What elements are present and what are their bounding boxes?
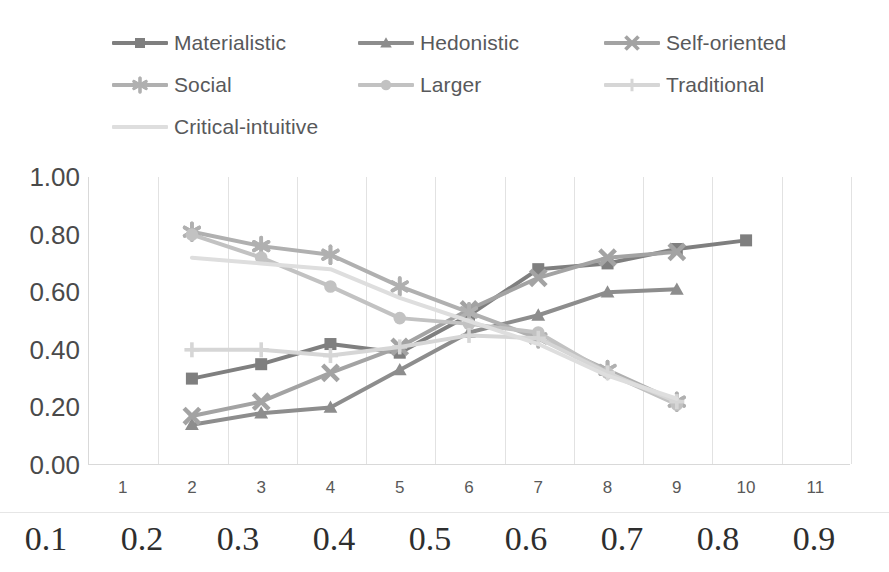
legend-item-critical-intuitive[interactable]: Critical-intuitive [112,106,358,148]
legend-x-marker [604,34,660,52]
legend-item-traditional[interactable]: Traditional [604,64,850,106]
x-tick-label: 10 [716,478,776,498]
y-tick-label: 0.20 [10,392,80,423]
x-tick-label: 2 [162,478,222,498]
y-tick-label: 0.40 [10,334,80,365]
y-tick-label: 0.00 [10,450,80,481]
legend-swatch [604,34,660,52]
legend-line [112,125,168,129]
legend-triangle-marker [358,34,414,52]
chart-legend: MaterialisticHedonisticSelf-orientedSoci… [112,22,852,148]
x-tick-label: 1 [93,478,153,498]
page-divider [0,512,889,513]
legend-item-larger[interactable]: Larger [358,64,604,106]
x-tick-label: 7 [508,478,568,498]
legend-item-label: Self-oriented [666,31,786,55]
legend-swatch [112,118,168,136]
legend-item-materialistic[interactable]: Materialistic [112,22,358,64]
series-social [185,223,684,410]
plus-marker [323,348,338,363]
legend-swatch [112,34,168,52]
legend-plus-marker [604,76,660,94]
legend-swatch [358,76,414,94]
triangle-marker [380,37,392,47]
circle-marker [324,280,337,293]
circle-marker [381,80,392,91]
legend-swatch [358,34,414,52]
circle-marker [186,228,199,241]
ruler-tick-label: 0.4 [279,520,389,558]
plus-marker [254,342,269,357]
ruler-tick-label: 0.6 [471,520,581,558]
legend-item-social[interactable]: Social [112,64,358,106]
legend-item-hedonistic[interactable]: Hedonistic [358,22,604,64]
legend-swatch [112,76,168,94]
ruler-scale: 0.10.20.30.40.50.60.70.80.9 [0,520,889,570]
plus-marker [626,79,639,92]
square-marker [740,234,752,246]
legend-square-marker [112,34,168,52]
circle-marker [393,312,406,325]
ruler-tick-label: 0.1 [0,520,101,558]
legend-circle-marker [358,76,414,94]
y-tick-label: 0.80 [10,219,80,250]
x-tick-label: 11 [785,478,845,498]
y-tick-label: 1.00 [10,162,80,193]
x-tick-label: 4 [300,478,360,498]
x-tick-label: 8 [578,478,638,498]
x-tick-label: 5 [370,478,430,498]
series-layer [88,177,850,465]
legend-item-label: Critical-intuitive [174,115,318,139]
asterisk-marker [134,78,146,92]
ruler-tick-label: 0.9 [759,520,869,558]
ruler-tick-label: 0.5 [375,520,485,558]
square-marker [255,358,267,370]
y-tick-label: 0.60 [10,277,80,308]
legend-item-label: Social [174,73,232,97]
legend-item-label: Larger [420,73,481,97]
ruler-tick-label: 0.2 [87,520,197,558]
legend-item-label: Hedonistic [420,31,519,55]
plus-marker [184,342,199,357]
x-tick-label: 3 [231,478,291,498]
chart-figure: MaterialisticHedonisticSelf-orientedSoci… [0,0,889,572]
legend-swatch [604,76,660,94]
legend-item-label: Traditional [666,73,764,97]
ruler-tick-label: 0.3 [183,520,293,558]
plot-area [88,177,850,465]
x-axis-labels: 1234567891011 [88,478,850,506]
square-marker [135,38,145,48]
x-marker [626,37,639,50]
y-axis-labels: 1.000.800.600.400.200.00 [0,177,80,465]
x-tick-label: 6 [439,478,499,498]
legend-item-self-oriented[interactable]: Self-oriented [604,22,850,64]
square-marker [186,373,198,385]
x-tick-label: 9 [647,478,707,498]
legend-item-label: Materialistic [174,31,286,55]
vertical-gridline [851,177,852,464]
legend-asterisk-marker [112,76,168,94]
ruler-tick-label: 0.7 [567,520,677,558]
ruler-tick-label: 0.8 [663,520,773,558]
